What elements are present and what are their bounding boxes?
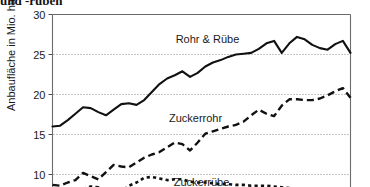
- y-tick-label: 10: [33, 169, 45, 181]
- series-label-2: Zuckerrübe: [174, 176, 230, 187]
- y-axis-ticks: 1015202530: [33, 9, 52, 181]
- series-label-0: Rohr & Rübe: [176, 33, 240, 45]
- line-chart-plot: 1015202530 Rohr & RübeZuckerrohrZuckerrü…: [0, 0, 370, 187]
- y-tick-label: 15: [33, 129, 45, 141]
- chart-figure: und -rüben Anbaufläche in Mio. ha 101520…: [0, 0, 370, 187]
- series-line-1: [53, 88, 351, 186]
- y-tick-label: 25: [33, 49, 45, 61]
- series-label-1: Zuckerrohr: [169, 112, 223, 124]
- y-tick-label: 20: [33, 89, 45, 101]
- y-tick-label: 30: [33, 9, 45, 21]
